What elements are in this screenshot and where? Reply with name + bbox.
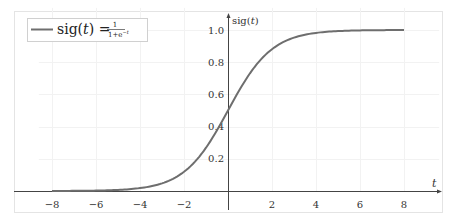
x-tick-label: −2 xyxy=(177,199,192,210)
x-axis-label: t xyxy=(432,177,437,190)
x-tick-labels: −8−6−4−22468 xyxy=(45,199,408,210)
x-tick-label: 8 xyxy=(401,199,407,210)
legend-lhs: sig(t) = xyxy=(57,21,110,37)
x-tick-label: 6 xyxy=(357,199,363,210)
y-tick-labels: 0.20.40.60.81.0 xyxy=(208,25,224,165)
x-tick-label: −8 xyxy=(45,199,60,210)
y-axis-label: sig(t) xyxy=(232,15,259,26)
x-axis-arrow-icon xyxy=(437,190,442,194)
legend: sig(t) = 1 1+e−t xyxy=(28,19,148,42)
y-tick-label: 0.2 xyxy=(208,153,224,164)
y-tick-label: 0.6 xyxy=(208,89,224,100)
legend-numerator: 1 xyxy=(113,21,117,29)
y-axis-arrow-icon xyxy=(227,13,231,18)
x-tick-label: 2 xyxy=(269,199,275,210)
sigmoid-chart: t sig(t) −8−6−4−22468 0.20.40.60.81.0 si… xyxy=(0,0,451,223)
x-tick-label: 4 xyxy=(313,199,319,210)
y-tick-label: 0.8 xyxy=(208,57,224,68)
y-tick-label: 1.0 xyxy=(208,25,224,36)
x-tick-label: −6 xyxy=(89,199,104,210)
x-tick-label: −4 xyxy=(133,199,148,210)
